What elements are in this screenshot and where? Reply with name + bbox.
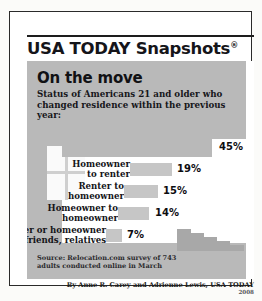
bar-label-line: to friends, relatives [27, 236, 106, 246]
bar-fill [124, 185, 158, 198]
registered-mark: ® [230, 41, 238, 50]
bar-label: Renter or homeowner to friends, relative… [27, 226, 106, 245]
bar-value: 19% [177, 163, 201, 174]
brand-title-text: USA TODAY Snapshots [27, 39, 230, 58]
infographic-frame: USA TODAY Snapshots® On the move Status … [9, 11, 252, 286]
description: Status of Americans 21 and older who cha… [37, 89, 237, 121]
bar-value: 45% [219, 141, 243, 152]
chart-row: Homeowner to homeowner 14% [27, 203, 254, 224]
bar-fill [106, 229, 122, 242]
chart-row: Renter to renter 45% [27, 137, 254, 158]
bar-label: Homeowner to renter [27, 160, 130, 179]
bar-label: Homeowner to homeowner [27, 204, 118, 223]
snapshot-page: USA TODAY Snapshots® On the move Status … [0, 0, 262, 301]
bar-label-line: homeowner [27, 214, 118, 224]
source-note: Source: Relocation.com survey of 743 adu… [37, 254, 197, 270]
bar-fill [118, 207, 149, 220]
bar-label: Renter to homeowner [27, 182, 124, 201]
chart-row: Homeowner to renter 19% [27, 159, 254, 180]
bar-value: 15% [163, 185, 187, 196]
byline: By Anne R. Carey and Adrienne Lewis, USA… [27, 281, 254, 289]
bar-value: 14% [155, 207, 179, 218]
bar-fill [130, 163, 172, 176]
chart-row: Renter or homeowner to friends, relative… [27, 225, 254, 246]
headline: On the move [37, 69, 143, 87]
chart-row: Renter to homeowner 15% [27, 181, 254, 202]
content-panel: On the move Status of Americans 21 and o… [27, 61, 254, 279]
year-label: 2008 [27, 289, 254, 295]
bar-value: 7% [127, 229, 144, 240]
bar-fill [62, 137, 212, 157]
bar-label-line: to renter [27, 170, 130, 180]
page-title: USA TODAY Snapshots® [27, 39, 257, 58]
title-rule [27, 35, 254, 37]
bar-chart: Renter to renter 45% Homeowner to renter… [27, 123, 254, 251]
bar-label-line: homeowner [27, 192, 124, 202]
